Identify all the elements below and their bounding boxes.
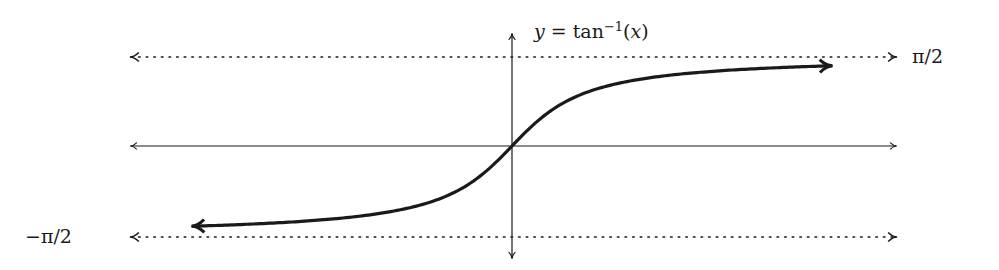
lower-asymptote-label: −π/2 (25, 225, 72, 247)
function-label-paren-close: ) (641, 20, 648, 42)
function-label-exponent: −1 (604, 19, 623, 34)
function-label-arg: x (631, 20, 642, 42)
function-label-eq: = tan (545, 20, 604, 42)
function-label-y: y (534, 20, 545, 42)
function-label: y = tan−1(x) (534, 19, 649, 42)
arctan-plot (0, 0, 999, 270)
upper-asymptote-label: π/2 (912, 45, 943, 67)
function-label-paren-open: ( (623, 20, 630, 42)
